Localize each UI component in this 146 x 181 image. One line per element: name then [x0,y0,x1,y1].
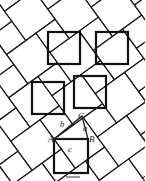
tile-square [99,159,145,181]
figure-canvas: A B C a b c [0,0,145,181]
tile-square [139,70,146,121]
tile-square [97,116,145,167]
tessellation-thick-squares [32,32,128,173]
c-square [32,82,64,114]
label-side-a: a [83,123,87,133]
tile-square [95,72,145,123]
tile-square [129,145,145,178]
pythagorean-tessellation-figure: A B C a b c [0,0,145,181]
tile-square [50,31,101,82]
c-square [74,76,106,108]
label-side-b: b [60,119,64,129]
tile-square [0,0,12,43]
label-vertex-a: A [47,134,54,144]
tile-square [7,33,58,84]
tile-square [93,29,144,80]
tile-square [141,114,145,165]
tile-square [40,106,73,139]
tile-square [38,63,71,96]
tile-square [0,165,20,181]
tile-square [0,151,32,181]
tile-square [56,161,107,181]
c-square [48,32,80,64]
tile-square [136,27,145,78]
label-vertex-c: C [78,111,85,121]
tile-square [0,108,30,141]
tile-square [0,35,14,86]
tile-square [85,147,118,180]
tile-square [77,0,110,7]
tile-square [0,65,28,98]
label-side-c: c [68,144,72,154]
caption-mark [66,176,80,178]
tile-square [120,0,145,5]
label-vertex-b: B [89,134,95,144]
tile-square [36,19,69,52]
tile-square [9,76,60,127]
tessellation-thin-grid [0,0,145,181]
tile-square [127,102,145,135]
